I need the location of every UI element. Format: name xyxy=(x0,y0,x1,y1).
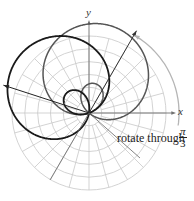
rotate-annotation: rotate through xyxy=(117,131,185,146)
axes xyxy=(87,20,176,115)
x-axis-label: x xyxy=(178,105,183,117)
fraction-denominator: 3 xyxy=(179,138,187,149)
polar-diagram xyxy=(0,0,194,201)
y-axis-label: y xyxy=(86,6,91,18)
rotation-angle-fraction: π 3 xyxy=(179,126,187,149)
direction-rays xyxy=(3,31,140,180)
